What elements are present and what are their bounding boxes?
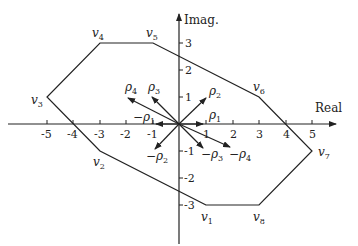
label-v2: v2: [93, 155, 105, 171]
x-tick-label: 3: [256, 128, 263, 141]
label-rho2: ρ2: [208, 84, 221, 100]
y-tick-label: -1: [184, 145, 195, 158]
label-v8: v8: [253, 210, 265, 226]
vector-rho2: [179, 98, 206, 124]
imag-axis-label: Imag.: [184, 13, 219, 27]
x-tick-label: 4: [283, 128, 290, 141]
real-axis-label: Real: [315, 101, 342, 115]
label-v5: v5: [146, 26, 158, 42]
x-tick-label: -5: [41, 128, 52, 141]
label-v1: v1: [201, 210, 213, 226]
x-tick-label: 1: [203, 128, 210, 141]
label-neg-rho4: −ρ4: [229, 147, 251, 163]
y-tick-label: 1: [185, 91, 192, 104]
label-rho1: ρ1: [208, 108, 221, 124]
label-neg-rho1: −ρ1: [133, 110, 155, 126]
vector-neg-rho2: [155, 124, 179, 149]
label-neg-rho2: −ρ2: [146, 149, 168, 165]
x-tick-label: -4: [67, 128, 78, 141]
label-v4: v4: [92, 26, 104, 42]
x-tick-label: -3: [94, 128, 105, 141]
y-tick-label: 3: [185, 37, 192, 50]
y-tick-label: -3: [184, 199, 195, 212]
x-tick-label: -2: [120, 128, 131, 141]
label-rho4: ρ4: [124, 80, 137, 96]
x-tick-label: 2: [230, 128, 237, 141]
x-tick-label: -1: [147, 128, 158, 141]
y-tick-label: 2: [185, 64, 192, 77]
y-tick-label: -2: [184, 172, 195, 185]
vector-rho3: [152, 97, 179, 124]
complex-plane-diagram: Real Imag. -5 -4 -3 -2 -1 1 2 3 4 5: [0, 0, 358, 246]
label-v6: v6: [253, 80, 265, 96]
label-v3: v3: [31, 93, 43, 109]
x-tick-label: 5: [309, 128, 316, 141]
label-rho3: ρ3: [147, 80, 160, 96]
label-neg-rho3: −ρ3: [201, 147, 223, 163]
label-v7: v7: [318, 145, 330, 161]
